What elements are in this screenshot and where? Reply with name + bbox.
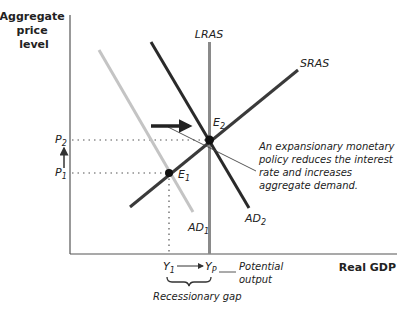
policy-note: An expansionary monetary policy reduces …	[258, 141, 398, 191]
y-axis-title: Aggregate price level	[0, 10, 69, 51]
p2-label: P2	[55, 133, 67, 148]
sras-label: SRAS	[300, 57, 329, 70]
e2-point	[205, 136, 214, 145]
e2-label: E2	[213, 116, 225, 131]
potential-output-note: Potential output	[239, 261, 286, 285]
recessionary-gap-brace	[167, 277, 211, 286]
recessionary-gap-label: Recessionary gap	[153, 291, 242, 302]
ad1-curve	[99, 50, 193, 212]
y1-label: Y1	[163, 260, 175, 275]
ad1-label: AD1	[187, 221, 209, 236]
ad-as-diagram: Aggregate price level Real GDP LRAS SRAS…	[0, 0, 413, 321]
e1-point	[165, 169, 173, 177]
lras-label: LRAS	[195, 28, 223, 41]
yp-label: YP	[205, 260, 217, 275]
ad2-label: AD2	[244, 212, 266, 227]
e1-label: E1	[178, 168, 190, 183]
x-axis-title: Real GDP	[339, 261, 396, 274]
p1-label: P1	[55, 166, 67, 181]
